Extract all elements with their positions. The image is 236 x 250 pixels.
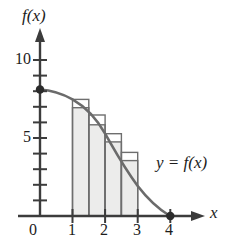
- riemann-sum-figure: f(x) x 10 5 0 1 2 3 4 y = f(x): [0, 0, 236, 250]
- x-axis-arrowhead: [191, 211, 205, 221]
- x-tick-label-1: 1: [68, 221, 76, 239]
- y-tick-label-5: 5: [23, 128, 31, 146]
- curve-endpoint-left-dot: [36, 85, 44, 93]
- y-axis-arrowhead: [35, 28, 45, 42]
- figure-canvas: [0, 0, 236, 250]
- lower-rect-2: [89, 125, 105, 216]
- x-tick-label-2: 2: [100, 221, 108, 239]
- origin-label: 0: [29, 221, 37, 239]
- curve-label: y = f(x): [156, 153, 207, 173]
- x-axis-label: x: [210, 203, 218, 223]
- y-tick-label-10: 10: [15, 50, 31, 68]
- lower-rect-3: [105, 142, 121, 216]
- curve-endpoint-right-dot: [166, 212, 174, 220]
- lower-rect-4: [121, 161, 137, 216]
- y-axis-label: f(x): [22, 6, 46, 26]
- lower-rect-1: [73, 108, 89, 216]
- x-tick-label-4: 4: [165, 221, 173, 239]
- x-tick-label-3: 3: [133, 221, 141, 239]
